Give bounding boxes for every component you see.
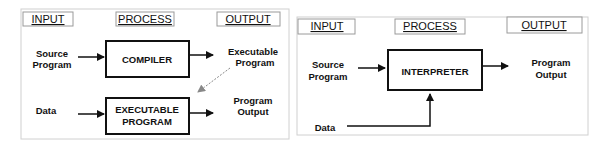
compiler-executable-label-2: Program [235, 57, 274, 68]
compiler-panel: INPUT PROCESS OUTPUT Source Program COMP… [21, 9, 289, 139]
compiler-input-header: INPUT [32, 13, 65, 25]
interpreter-panel: INPUT PROCESS OUTPUT Source Program INTE… [297, 17, 588, 135]
compiler-output-label-2: Output [237, 106, 269, 117]
interpreter-data-label: Data [315, 122, 336, 133]
interpreter-output-label-1: Program [531, 57, 570, 68]
compiler-output-label-1: Program [233, 95, 272, 106]
compiler-output-header: OUTPUT [225, 13, 271, 25]
compiler-executable-label-1: Executable [228, 46, 278, 57]
interpreter-output-label-2: Output [535, 69, 567, 80]
interpreter-box-label: INTERPRETER [401, 66, 468, 77]
interpreter-source-label-2: Program [308, 71, 347, 82]
executable-box-label-1: EXECUTABLE [115, 104, 179, 115]
compiler-source-label-2: Program [32, 59, 71, 70]
interpreter-source-label-1: Source [312, 59, 344, 70]
interpreter-process-header: PROCESS [403, 20, 457, 32]
compiler-box-label: COMPILER [122, 54, 172, 65]
interpreter-output-header: OUTPUT [521, 19, 567, 31]
compiler-process-header: PROCESS [118, 13, 172, 25]
compiler-data-label: Data [36, 105, 57, 116]
compiler-source-label-1: Source [36, 48, 68, 59]
interpreter-input-header: INPUT [311, 20, 344, 32]
executable-box-label-2: PROGRAM [122, 116, 172, 127]
diagram-canvas: INPUT PROCESS OUTPUT Source Program COMP… [0, 0, 600, 145]
